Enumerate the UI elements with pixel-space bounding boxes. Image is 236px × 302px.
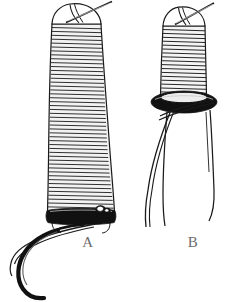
- torus-inner-b: [161, 92, 207, 102]
- figure-illustration: A B: [0, 0, 236, 302]
- panel-a-label: A: [76, 235, 100, 250]
- line-art-drawing: [0, 0, 236, 302]
- panel-b-label: B: [181, 235, 205, 250]
